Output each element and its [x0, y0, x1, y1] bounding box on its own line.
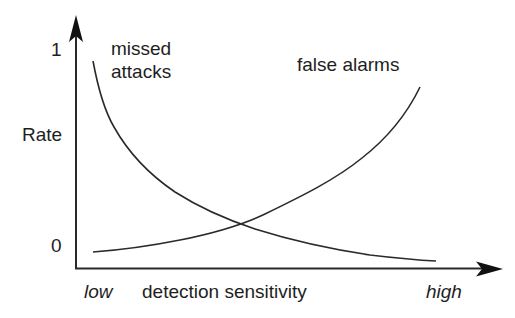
missed-attacks-label-line1: missed	[111, 39, 171, 58]
missed-attacks-curve	[93, 61, 436, 261]
y-tick-top: 1	[51, 40, 62, 59]
x-tick-high: high	[426, 282, 462, 301]
missed-attacks-label-line2: attacks	[111, 62, 171, 81]
false-alarms-curve	[93, 87, 420, 252]
tradeoff-diagram: 1 Rate 0 missed attacks false alarms low…	[0, 0, 515, 318]
y-tick-bottom: 0	[51, 236, 62, 255]
diagram-canvas	[0, 0, 515, 318]
x-axis-title: detection sensitivity	[142, 282, 307, 301]
x-tick-low: low	[84, 282, 113, 301]
false-alarms-label: false alarms	[297, 55, 399, 74]
y-axis-title: Rate	[22, 125, 62, 144]
